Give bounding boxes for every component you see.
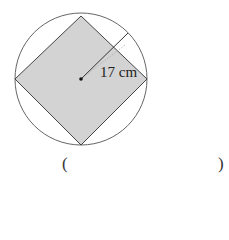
answer-blank[interactable] [75, 154, 215, 174]
length-label: 17 cm [100, 64, 137, 80]
answer-close-paren: ) [218, 154, 224, 174]
answer-open-paren: ( [62, 154, 68, 174]
center-point [79, 77, 83, 81]
